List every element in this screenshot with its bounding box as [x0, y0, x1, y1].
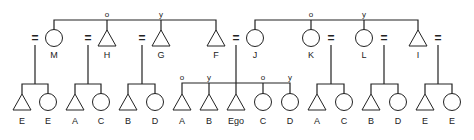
marriage-sign: = [31, 31, 38, 45]
person-label: K [308, 50, 314, 60]
marriage-sign: = [327, 31, 334, 45]
male-symbol [173, 94, 191, 110]
female-symbol-K [303, 30, 320, 47]
children-H: A C [66, 84, 110, 126]
sibling-line [255, 20, 418, 31]
birth-order-label: o [105, 10, 110, 19]
male-symbol-H [98, 30, 116, 46]
person-label: E [422, 116, 428, 126]
person-label: C [260, 116, 267, 126]
male-symbol [416, 94, 434, 110]
female-symbol [40, 94, 57, 111]
birth-order-label: o [180, 73, 185, 82]
female-symbol [390, 94, 407, 111]
female-symbol [444, 94, 461, 111]
person-label: D [395, 116, 402, 126]
sibling-drop-lines [311, 20, 364, 31]
person-label: G [157, 50, 164, 60]
birth-order-label: y [362, 10, 366, 19]
left-sibling-group: o y M H G F [46, 10, 226, 60]
sibling-line [22, 84, 48, 94]
sibling-line [425, 84, 452, 94]
birth-order-label: y [288, 73, 292, 82]
female-symbol-L [356, 30, 373, 47]
person-label: A [314, 116, 320, 126]
male-symbol-I [409, 30, 427, 46]
birth-order-label: y [207, 73, 211, 82]
sibling-line [371, 84, 398, 94]
person-label: D [152, 116, 159, 126]
male-symbol-G [152, 30, 170, 46]
male-symbol [362, 94, 380, 110]
person-label: F [213, 50, 219, 60]
female-symbol-J [247, 30, 264, 47]
person-label: B [368, 116, 374, 126]
birth-order-label: y [159, 10, 163, 19]
female-symbol [147, 94, 164, 111]
person-label: E [45, 116, 51, 126]
sibling-line [128, 84, 155, 94]
person-label: C [98, 116, 105, 126]
sibling-line [54, 20, 216, 31]
children-G: B D [119, 84, 164, 126]
male-symbol [200, 94, 218, 110]
female-symbol [336, 94, 353, 111]
marriage-sign: = [380, 31, 387, 45]
male-symbol [308, 94, 326, 110]
children-I: E E [416, 84, 461, 126]
marriage-sign: = [84, 31, 91, 45]
male-symbol [13, 94, 31, 110]
person-label: D [287, 116, 294, 126]
person-label: I [417, 50, 420, 60]
male-symbol-F [207, 30, 225, 46]
kinship-diagram: o y M H G F o y J K L I = = = = = = = [0, 0, 474, 140]
person-label: E [449, 116, 455, 126]
person-label: E [19, 116, 25, 126]
marriage-sign: = [434, 31, 441, 45]
sibling-drop-lines [209, 83, 263, 94]
marriage-sign: = [138, 31, 145, 45]
children-K: A C [308, 84, 353, 126]
person-label: J [253, 50, 258, 60]
children-L: B D [362, 84, 407, 126]
sibling-line [317, 84, 344, 94]
sibling-drop-lines [107, 20, 161, 31]
marriage-sign: = [232, 31, 239, 45]
person-label: H [104, 50, 111, 60]
male-symbol [119, 94, 137, 110]
marriage-links: = = = = = = = [31, 31, 441, 84]
person-label: C [341, 116, 348, 126]
female-symbol [282, 94, 299, 111]
ego-male-symbol [227, 94, 245, 110]
birth-order-label: o [309, 10, 314, 19]
person-label: A [179, 116, 185, 126]
person-label: B [206, 116, 212, 126]
ego-label: Ego [228, 116, 244, 126]
female-symbol [255, 94, 272, 111]
female-symbol-M [46, 30, 63, 47]
right-sibling-group: o y J K L I [247, 10, 428, 60]
sibling-line [75, 84, 101, 94]
person-label: L [361, 50, 366, 60]
children-M: E E [13, 84, 57, 126]
person-label: M [50, 50, 58, 60]
person-label: B [125, 116, 131, 126]
male-symbol [66, 94, 84, 110]
person-label: A [72, 116, 78, 126]
female-symbol [93, 94, 110, 111]
birth-order-label: o [261, 73, 266, 82]
